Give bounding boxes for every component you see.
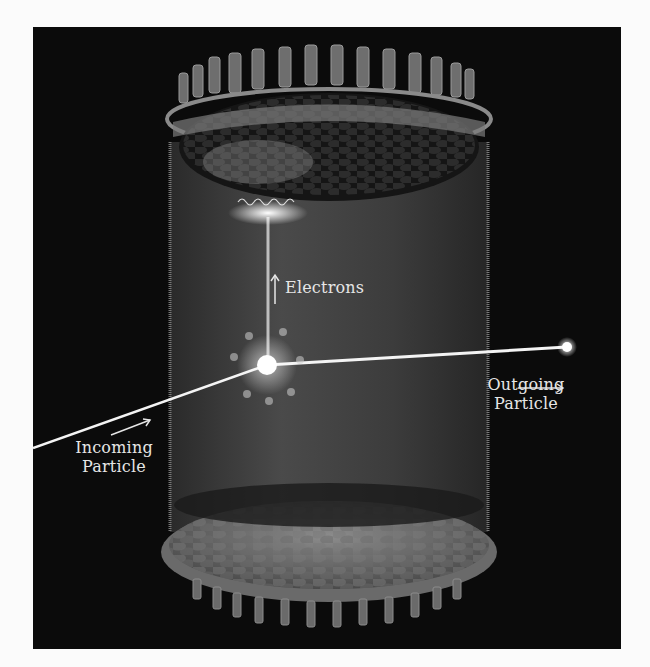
detector-diagram: Electrons Outgoing Particle Incoming Par… <box>33 27 621 649</box>
electrons-text: Electrons <box>285 278 364 297</box>
bottom-photomultiplier-array <box>161 483 497 627</box>
arrow-up-right-icon <box>109 417 153 437</box>
arrow-up-icon <box>269 273 281 305</box>
detector-illustration <box>33 27 621 649</box>
electrons-label: Electrons <box>285 278 364 297</box>
outgoing-line2: Particle <box>486 394 566 413</box>
incoming-particle-label: Incoming Particle <box>71 438 157 476</box>
outgoing-particle-label: Outgoing Particle <box>486 375 566 413</box>
incoming-line2: Particle <box>71 457 157 476</box>
top-photomultiplier-array <box>167 45 491 201</box>
incoming-line1: Incoming <box>71 438 157 457</box>
arrow-right-icon <box>517 382 565 394</box>
